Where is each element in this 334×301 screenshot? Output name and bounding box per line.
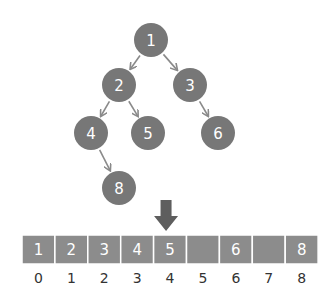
array-index-label: 3 xyxy=(133,270,142,286)
tree-edge-4-8 xyxy=(100,150,110,170)
array-cell-3: 4 xyxy=(121,235,154,264)
array-index-label: 8 xyxy=(297,270,306,286)
array-cell-5 xyxy=(187,235,220,264)
array-cell-7 xyxy=(252,235,285,264)
tree-edge-1-2 xyxy=(131,55,140,68)
array-cell-2: 3 xyxy=(88,235,121,264)
tree-node-8: 8 xyxy=(102,171,136,205)
tree-node-5: 5 xyxy=(131,116,165,150)
tree-edge-2-4 xyxy=(101,101,109,115)
array-index-label: 1 xyxy=(67,270,76,286)
tree-node-label: 2 xyxy=(114,77,124,95)
tree-nodes: 1234568 xyxy=(74,23,235,205)
tree-edge-2-5 xyxy=(129,101,138,116)
array-cell-value: 3 xyxy=(99,241,109,259)
array-cell-4: 5 xyxy=(154,235,187,264)
array-cell-6: 6 xyxy=(219,235,252,264)
tree-node-4: 4 xyxy=(74,116,108,150)
array-indices: 012345678 xyxy=(34,270,306,286)
tree-node-1: 1 xyxy=(134,23,168,57)
array-cell-8: 8 xyxy=(285,235,318,264)
array-index-label: 2 xyxy=(100,270,109,286)
array-cell-value: 8 xyxy=(297,241,307,259)
array-index-label: 4 xyxy=(166,270,175,286)
down-arrow-icon xyxy=(154,200,178,231)
array-cells: 1234568 xyxy=(22,235,318,264)
tree-edge-3-6 xyxy=(200,101,208,115)
down-arrow-shape xyxy=(154,200,178,231)
array-cell-value: 1 xyxy=(34,241,44,259)
tree-node-3: 3 xyxy=(173,68,207,102)
tree-node-label: 3 xyxy=(185,77,195,95)
array-cell-box xyxy=(187,235,220,264)
tree-node-label: 1 xyxy=(146,32,156,50)
tree-edge-1-3 xyxy=(163,54,176,70)
tree-node-label: 8 xyxy=(114,180,124,198)
tree-node-label: 6 xyxy=(213,125,223,143)
array-index-label: 6 xyxy=(231,270,240,286)
array-cell-value: 6 xyxy=(231,241,241,259)
tree-node-label: 4 xyxy=(86,125,96,143)
array-cell-value: 2 xyxy=(67,241,77,259)
array-index-label: 5 xyxy=(198,270,207,286)
array-cell-1: 2 xyxy=(55,235,88,264)
tree-node-label: 5 xyxy=(143,125,153,143)
array-cell-value: 4 xyxy=(132,241,142,259)
array-cell-box xyxy=(252,235,285,264)
array-cell-0: 1 xyxy=(22,235,55,264)
binary-tree-array-diagram: 1234568 1234568 012345678 xyxy=(0,0,334,301)
array-cell-value: 5 xyxy=(165,241,175,259)
tree-node-6: 6 xyxy=(201,116,235,150)
array-index-label: 7 xyxy=(264,270,273,286)
tree-node-2: 2 xyxy=(102,68,136,102)
array-index-label: 0 xyxy=(34,270,43,286)
